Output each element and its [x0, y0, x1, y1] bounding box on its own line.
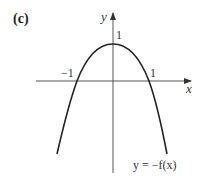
curve-label: y = −f(x)	[133, 158, 177, 172]
tick-label-x-1: 1	[150, 66, 156, 80]
tick-label-x-neg1: −1	[61, 66, 74, 80]
tick-label-y-1: 1	[116, 28, 122, 42]
y-axis-label: y	[99, 9, 107, 24]
plot: (c) x y −1 1 1 y = −f(x)	[0, 0, 202, 179]
figure: (c) x y −1 1 1 y = −f(x)	[0, 0, 202, 179]
curve-neg-f	[57, 44, 167, 154]
panel-label: (c)	[13, 11, 29, 27]
x-axis-label: x	[185, 81, 192, 96]
